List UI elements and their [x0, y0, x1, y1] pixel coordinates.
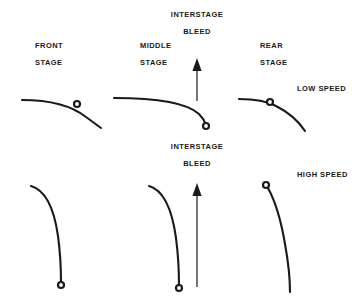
rear-stage-high-speed-marker — [263, 182, 269, 188]
arrow-group — [192, 58, 201, 287]
front-stage-low-speed-curve — [22, 100, 101, 128]
interstage-bleed-arrow-top-head — [192, 58, 201, 71]
low-speed-label: LOW SPEED — [297, 85, 346, 93]
rear-stage-label-line1: REAR — [260, 42, 283, 50]
diagram-canvas: INTERSTAGE BLEED FRONT STAGE MIDDLE STAG… — [0, 0, 356, 305]
front-stage-low-speed-marker — [74, 101, 80, 107]
front-stage-high-speed-marker — [58, 282, 64, 288]
curve-group — [22, 98, 305, 292]
marker-group — [58, 99, 273, 291]
middle-stage-low-speed-marker — [203, 123, 209, 129]
middle-stage-high-speed-marker — [176, 285, 182, 291]
interstage-bleed-top-label-line1: INTERSTAGE — [171, 11, 223, 19]
rear-stage-low-speed-marker — [267, 99, 273, 105]
interstage-bleed-top-label-line2: BLEED — [183, 28, 211, 36]
interstage-bleed-bottom-label-line1: INTERSTAGE — [171, 143, 223, 151]
middle-stage-low-speed-curve — [114, 98, 206, 125]
rear-stage-high-speed-curve — [268, 188, 290, 292]
middle-stage-label-line2: STAGE — [140, 59, 168, 67]
front-stage-high-speed-curve — [31, 186, 61, 283]
front-stage-label-line1: FRONT — [35, 42, 63, 50]
high-speed-label: HIGH SPEED — [297, 171, 348, 179]
middle-stage-high-speed-curve — [149, 186, 179, 286]
interstage-bleed-bottom-label-line2: BLEED — [183, 160, 211, 168]
front-stage-label-line2: STAGE — [35, 59, 63, 67]
middle-stage-label-line1: MIDDLE — [140, 42, 171, 50]
rear-stage-label-line2: STAGE — [260, 59, 288, 67]
interstage-bleed-arrow-bottom-head — [192, 183, 201, 196]
